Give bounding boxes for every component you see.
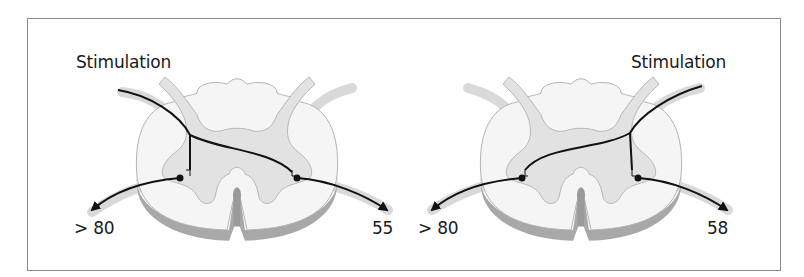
value-left-ipsilateral: > 80 bbox=[74, 218, 114, 238]
left-panel bbox=[92, 77, 388, 241]
value-right-contralateral: > 80 bbox=[418, 218, 458, 238]
spinal-cord-diagram bbox=[0, 0, 804, 277]
value-right-ipsilateral: 58 bbox=[707, 218, 728, 238]
stimulation-label-left: Stimulation bbox=[76, 52, 171, 72]
stimulation-label-right: Stimulation bbox=[631, 52, 726, 72]
value-left-contralateral: 55 bbox=[372, 218, 393, 238]
right-panel bbox=[432, 77, 728, 241]
